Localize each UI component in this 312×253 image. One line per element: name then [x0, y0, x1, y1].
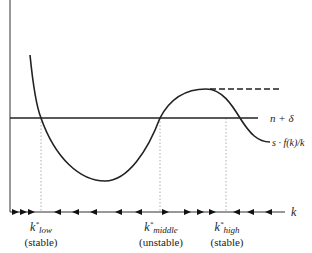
k-high-status: (stable): [203, 236, 251, 248]
savings-curve-label: s · f(k)/k: [272, 137, 305, 149]
k-high-label: k*high (stable): [203, 218, 251, 248]
solow-multiple-steady-states-diagram: n + δ s · f(k)/k k: [0, 0, 312, 253]
n-plus-delta-label: n + δ: [270, 112, 294, 124]
k-low-label: k*low (stable): [18, 218, 64, 248]
k-low-symbol: k*low: [30, 220, 52, 234]
x-axis-label: k: [291, 205, 297, 219]
k-middle-symbol: k*middle: [144, 220, 177, 234]
k-low-status: (stable): [18, 236, 64, 248]
k-high-symbol: k*high: [215, 220, 240, 234]
k-middle-status: (unstable): [132, 236, 190, 248]
k-middle-label: k*middle (unstable): [132, 218, 190, 248]
